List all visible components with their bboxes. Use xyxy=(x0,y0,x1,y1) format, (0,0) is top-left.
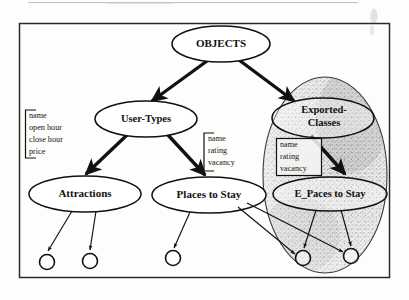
edge-user-types-to-places-to-stay xyxy=(168,135,205,175)
attribute-bracket-attractions: name open hour close hour price xyxy=(26,110,64,158)
node-label-user-types: User-Types xyxy=(121,113,171,124)
attr-exported-name: name xyxy=(280,140,298,149)
link-attractions-inst-1 xyxy=(48,211,72,251)
link-places-inst-1 xyxy=(174,212,190,248)
instance-circle-attractions-2[interactable] xyxy=(83,254,98,269)
instance-circle-places-1[interactable] xyxy=(166,251,181,266)
attr-places-name: name xyxy=(208,134,226,143)
attr-attractions-open-hour: open hour xyxy=(29,123,62,132)
object-hierarchy-diagram: OBJECTS User-Types Exported- Classes Att… xyxy=(0,0,409,300)
edge-objects-to-exported-classes xyxy=(239,60,294,101)
edge-objects-to-user-types xyxy=(152,61,207,101)
scan-artifact-corner-smudge xyxy=(370,9,378,36)
scan-artifact-top-rule xyxy=(28,2,358,4)
attr-attractions-price: price xyxy=(29,147,46,156)
attribute-bracket-places-to-stay: name rating vacancy xyxy=(204,133,236,171)
attr-places-rating: rating xyxy=(208,146,227,155)
instance-circle-shared-1[interactable] xyxy=(296,251,311,266)
attribute-box-exported-classes: name rating vacancy xyxy=(277,139,322,176)
node-label-places-to-stay: Places to Stay xyxy=(177,188,242,200)
attr-exported-vacancy: vacancy xyxy=(280,164,308,173)
edge-user-types-to-attractions xyxy=(86,135,127,174)
node-label-exported-classes-line1: Exported- xyxy=(301,104,347,115)
node-label-objects: OBJECTS xyxy=(196,37,246,49)
node-label-e-paces-to-stay: E_Paces to Stay xyxy=(294,188,366,199)
attr-places-vacancy: vacancy xyxy=(208,158,236,167)
instance-circle-attractions-1[interactable] xyxy=(40,255,55,270)
node-label-attractions: Attractions xyxy=(58,187,112,199)
attr-attractions-name: name xyxy=(29,111,47,120)
link-attractions-inst-2 xyxy=(90,211,96,250)
node-label-exported-classes-line2: Classes xyxy=(308,117,341,128)
attr-exported-rating: rating xyxy=(280,152,299,161)
instance-circle-shared-2[interactable] xyxy=(344,249,359,264)
figure-page: OBJECTS User-Types Exported- Classes Att… xyxy=(0,0,409,300)
attr-attractions-close-hour: close hour xyxy=(29,135,63,144)
